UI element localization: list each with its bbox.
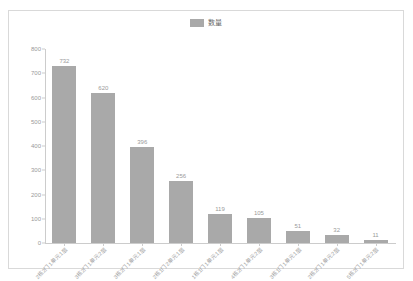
bar[interactable]: [286, 231, 310, 243]
bar-slot[interactable]: 32: [317, 49, 356, 243]
bar-slot[interactable]: 51: [278, 49, 317, 243]
bar[interactable]: [325, 235, 349, 243]
bar[interactable]: [130, 147, 154, 243]
chart-legend: 数量: [9, 16, 403, 30]
bar-slot[interactable]: 732: [45, 49, 84, 243]
bar-value-label: 396: [137, 139, 147, 146]
bar-slot[interactable]: 396: [123, 49, 162, 243]
x-axis-label: 2栋2门1单元1层: [35, 246, 70, 281]
legend-swatch-icon: [190, 19, 204, 27]
bar-value-label: 105: [254, 210, 264, 217]
bar[interactable]: [169, 181, 193, 243]
bar-value-label: 256: [176, 173, 186, 180]
bar-slot[interactable]: 119: [201, 49, 240, 243]
x-axis-label-slot: 5栋2门1单元2层: [356, 245, 395, 281]
bar[interactable]: [91, 93, 115, 243]
bar-slot[interactable]: 256: [162, 49, 201, 243]
bar-value-label: 732: [59, 58, 69, 65]
bar[interactable]: [208, 214, 232, 243]
bar-slot[interactable]: 105: [239, 49, 278, 243]
bar-value-label: 620: [98, 85, 108, 92]
bar-value-label: 11: [372, 232, 378, 239]
bar-value-label: 32: [333, 227, 340, 234]
bar-value-label: 51: [294, 223, 301, 230]
legend-label: 数量: [208, 19, 222, 27]
bar-slot[interactable]: 11: [356, 49, 395, 243]
x-axis-labels: 2栋2门1单元1层3栋2门1单元2层3栋2门1单元1层2栋1门2单元1层1栋1门…: [45, 245, 395, 281]
plot-area: 0100200300400500600700800 73262039625611…: [45, 49, 395, 243]
bar[interactable]: [247, 218, 271, 243]
bar-group: 732620396256119105513211: [45, 49, 395, 243]
bar-value-label: 119: [215, 206, 225, 213]
bar[interactable]: [52, 66, 76, 244]
chart-container: 数量 0100200300400500600700800 73262039625…: [8, 10, 404, 269]
bar-slot[interactable]: 620: [84, 49, 123, 243]
